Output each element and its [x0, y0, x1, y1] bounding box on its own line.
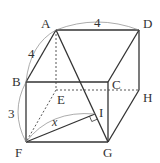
vertex-label-B: B [12, 74, 21, 89]
vertex-label-E: E [57, 92, 65, 107]
arc-BF [18, 82, 26, 142]
vertex-label-D: D [143, 16, 152, 31]
segment-AG [56, 30, 108, 142]
vertex-label-F: F [15, 145, 22, 160]
label-BF-length: 3 [8, 106, 15, 121]
label-FI-length: x [51, 115, 58, 129]
vertex-label-I: I [99, 105, 103, 120]
prism-diagram: 4 4 3 x A D B C E H I F G [0, 0, 160, 163]
vertex-label-C: C [112, 77, 121, 92]
label-AB-length: 4 [28, 46, 35, 61]
vertex-label-H: H [143, 90, 152, 105]
vertex-label-G: G [103, 145, 112, 160]
edge-HG [108, 90, 139, 142]
segment-FI [26, 114, 95, 142]
vertex-label-A: A [41, 16, 51, 31]
edge-DC [108, 30, 139, 82]
label-AD-length: 4 [94, 15, 101, 30]
